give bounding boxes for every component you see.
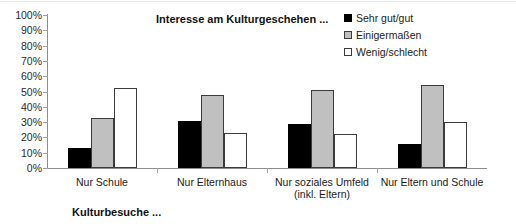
y-tick: 90% bbox=[0, 25, 48, 35]
y-tick-label: 30% bbox=[2, 117, 42, 127]
chart-title: Interesse am Kulturgeschehen ... bbox=[156, 13, 328, 25]
category-label: Nur Eltern und Schule bbox=[371, 176, 493, 188]
category-label-line: (inkl. Eltern) bbox=[261, 188, 383, 200]
bar bbox=[114, 88, 137, 168]
bar bbox=[421, 85, 444, 168]
y-tick: 20% bbox=[0, 132, 48, 142]
y-tick-label: 80% bbox=[2, 41, 42, 51]
legend-label: Sehr gut/gut bbox=[356, 13, 413, 23]
y-tick-label: 100% bbox=[2, 10, 42, 20]
category-label: Nur soziales Umfeld(inkl. Eltern) bbox=[261, 176, 383, 200]
bar bbox=[311, 90, 334, 168]
y-tick-label: 40% bbox=[2, 102, 42, 112]
category-label-line: Nur Elternhaus bbox=[151, 176, 273, 188]
legend-item: Einigermaßen bbox=[344, 28, 427, 42]
y-tick: 70% bbox=[0, 56, 48, 66]
scan-artifact-line bbox=[0, 1, 516, 2]
y-tick: 10% bbox=[0, 148, 48, 158]
y-tick: 80% bbox=[0, 41, 48, 51]
y-tick: 50% bbox=[0, 87, 48, 97]
legend-swatch-icon bbox=[344, 14, 352, 22]
legend-item: Sehr gut/gut bbox=[344, 11, 427, 25]
y-tick-label: 60% bbox=[2, 71, 42, 81]
x-axis-separator bbox=[157, 168, 158, 173]
bar bbox=[178, 121, 201, 168]
bar-chart: Interesse am Kulturgeschehen ... Sehr gu… bbox=[0, 0, 516, 224]
y-tick-label: 50% bbox=[2, 87, 42, 97]
y-tick-label: 70% bbox=[2, 56, 42, 66]
bar bbox=[334, 134, 357, 168]
y-tick-label: 0% bbox=[2, 163, 42, 173]
y-tick: 100% bbox=[0, 10, 48, 20]
bar bbox=[224, 133, 247, 168]
chart-legend: Sehr gut/gutEinigermaßenWenig/schlecht bbox=[344, 11, 427, 62]
category-label-line: Nur Schule bbox=[41, 176, 163, 188]
category-label-line: Nur Eltern und Schule bbox=[371, 176, 493, 188]
y-tick-label: 90% bbox=[2, 25, 42, 35]
bar bbox=[201, 95, 224, 168]
bar bbox=[288, 124, 311, 168]
y-tick: 60% bbox=[0, 71, 48, 81]
legend-label: Wenig/schlecht bbox=[356, 47, 427, 57]
bar bbox=[68, 148, 91, 168]
x-axis-separator bbox=[267, 168, 268, 173]
legend-item: Wenig/schlecht bbox=[344, 45, 427, 59]
category-label: Nur Elternhaus bbox=[151, 176, 273, 188]
legend-swatch-icon bbox=[344, 31, 352, 39]
category-label: Nur Schule bbox=[41, 176, 163, 188]
x-axis-title: Kulturbesuche ... bbox=[72, 206, 161, 218]
y-tick: 40% bbox=[0, 102, 48, 112]
y-tick-label: 20% bbox=[2, 132, 42, 142]
bar bbox=[91, 118, 114, 168]
legend-label: Einigermaßen bbox=[356, 30, 421, 40]
bar bbox=[444, 122, 467, 168]
y-tick: 30% bbox=[0, 117, 48, 127]
x-axis-separator bbox=[377, 168, 378, 173]
y-tick-label: 10% bbox=[2, 148, 42, 158]
category-label-line: Nur soziales Umfeld bbox=[261, 176, 383, 188]
bar bbox=[398, 144, 421, 168]
legend-swatch-icon bbox=[344, 48, 352, 56]
y-tick: 0% bbox=[0, 163, 48, 173]
